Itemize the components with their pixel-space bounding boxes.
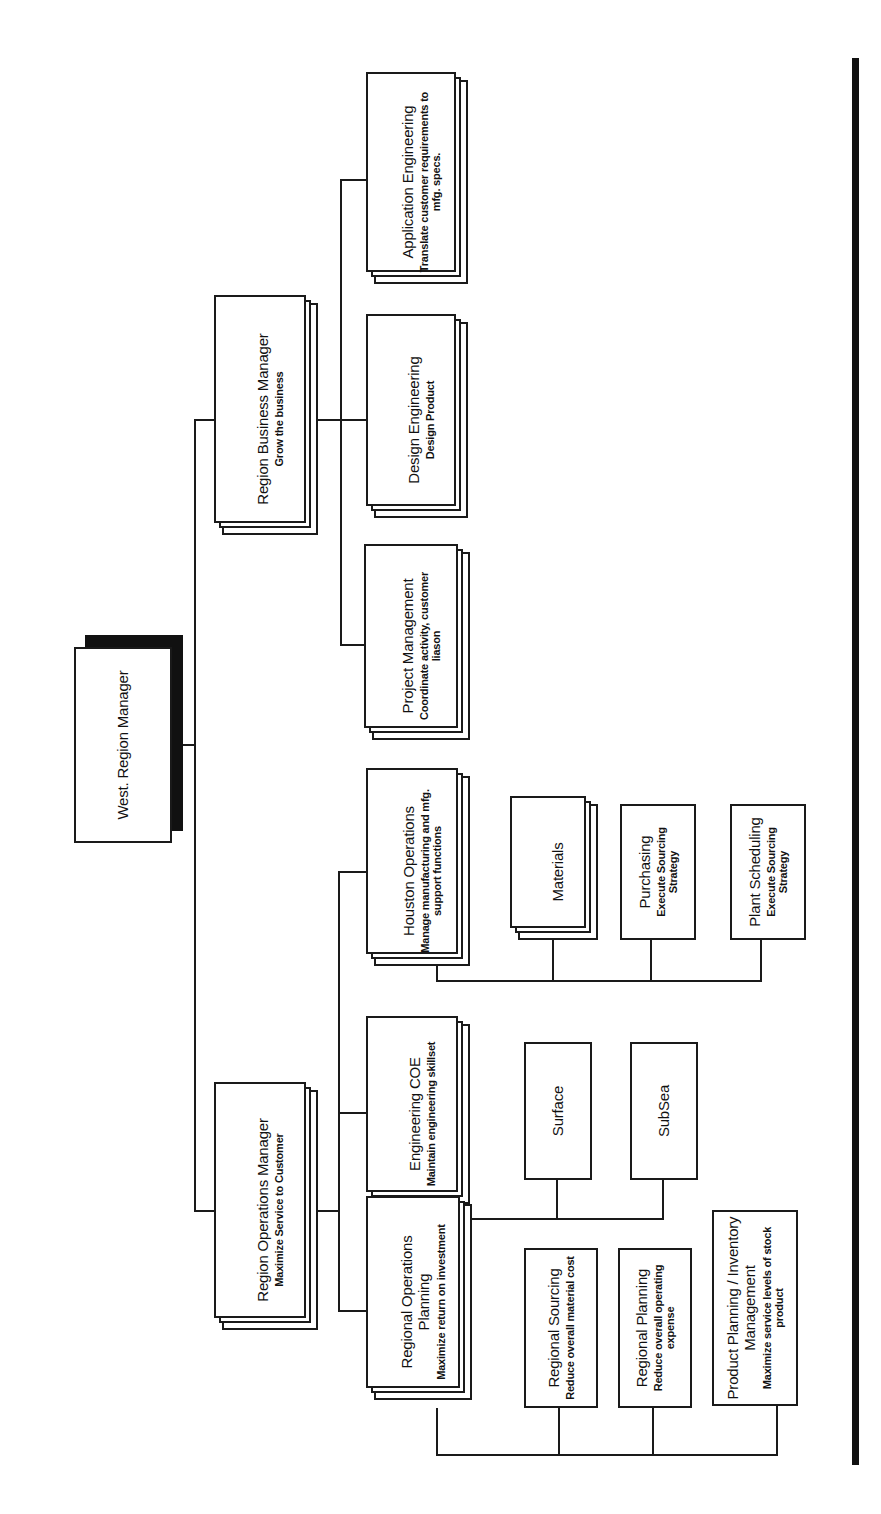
node-surface[interactable]: Surface	[524, 1042, 592, 1180]
node-region-business-manager[interactable]: Region Business Manager Grow the busines…	[222, 303, 318, 535]
connector-to-regional-planning	[652, 1408, 654, 1456]
node-regional-operations-planning[interactable]: Regional Operations Planning Maximize re…	[374, 1204, 472, 1400]
connector-rom-bus	[338, 872, 340, 1312]
node-title: Materials	[550, 842, 567, 901]
node-houston-operations[interactable]: Houston Operations Manage manufacturing …	[374, 776, 470, 966]
org-chart-canvas: West. Region Manager Region Business Man…	[0, 0, 881, 1514]
node-title: Design Engineering	[406, 356, 423, 483]
node-design-engineering[interactable]: Design Engineering Design Product	[374, 322, 468, 518]
connector-to-subsea	[662, 1180, 664, 1220]
connector-to-regional-sourcing	[558, 1408, 560, 1456]
node-title: Region Business Manager	[255, 333, 272, 504]
node-engineering-coe[interactable]: Engineering COE Maintain engineering ski…	[374, 1024, 470, 1204]
node-subtitle: Maximize Service to Customer	[273, 1133, 285, 1286]
node-title: Purchasing	[637, 835, 654, 908]
node-title: Product Planning / Inventory Management	[725, 1216, 759, 1400]
node-subtitle: Design Product	[424, 381, 436, 460]
connector-to-product-planning	[776, 1406, 778, 1456]
node-subtitle: Execute Sourcing Strategy	[765, 810, 789, 934]
node-title: Surface	[550, 1086, 567, 1136]
node-title: SubSea	[656, 1085, 673, 1137]
node-region-operations-manager[interactable]: Region Operations Manager Maximize Servi…	[222, 1090, 318, 1330]
node-title: Region Operations Manager	[255, 1118, 272, 1301]
connector-rop-stub	[436, 1408, 438, 1456]
node-subtitle: Maximize service levels of stock product	[761, 1216, 785, 1400]
connector-to-materials	[552, 940, 554, 982]
node-subsea[interactable]: SubSea	[630, 1042, 698, 1180]
connector-rbm-stub	[318, 419, 342, 421]
node-subtitle: Reduce overall operating expense	[652, 1254, 676, 1402]
node-title: Plant Scheduling	[747, 817, 764, 926]
node-product-planning-inventory-management[interactable]: Product Planning / Inventory Management …	[712, 1210, 798, 1406]
node-subtitle: Maintain engineering skillset	[425, 1042, 437, 1187]
node-subtitle: Execute Sourcing Strategy	[655, 810, 679, 934]
node-west-region-manager[interactable]: West. Region Manager	[74, 647, 172, 843]
node-regional-planning[interactable]: Regional Planning Reduce overall operati…	[618, 1248, 692, 1408]
node-regional-sourcing[interactable]: Regional Sourcing Reduce overall materia…	[524, 1248, 598, 1408]
node-title: Project Management	[400, 579, 417, 714]
connector-rop-bus	[436, 1454, 778, 1456]
node-subtitle: Maximize return on investment	[435, 1224, 447, 1380]
connector-root-stub	[172, 744, 196, 746]
connector-to-purchasing	[650, 940, 652, 982]
node-materials[interactable]: Materials	[518, 804, 598, 940]
node-subtitle: Grow the business	[273, 372, 285, 467]
node-plant-scheduling[interactable]: Plant Scheduling Execute Sourcing Strate…	[730, 804, 806, 940]
connector-level1-bus	[194, 420, 196, 1212]
node-title: Regional Planning	[634, 1269, 651, 1387]
node-title: Regional Operations Planning	[399, 1210, 433, 1394]
connector-to-plant-scheduling	[760, 940, 762, 982]
node-subtitle: Manage manufacturing and mfg. support fu…	[419, 782, 443, 960]
node-title: Regional Sourcing	[546, 1268, 563, 1387]
connector-houston-bus	[436, 980, 762, 982]
connector-to-surface	[556, 1180, 558, 1220]
node-title: Application Engineering	[400, 106, 417, 259]
node-project-management[interactable]: Project Management Coordinate activity, …	[372, 552, 470, 740]
node-title: Houston Operations	[401, 806, 418, 936]
page-edge-rule	[852, 58, 859, 1465]
node-title: Engineering COE	[407, 1057, 424, 1171]
connector-rom-stub	[318, 1210, 340, 1212]
node-title: West. Region Manager	[115, 670, 132, 819]
node-subtitle: Reduce overall material cost	[564, 1256, 576, 1400]
connector-rbm-bus	[340, 180, 342, 646]
node-purchasing[interactable]: Purchasing Execute Sourcing Strategy	[620, 804, 696, 940]
node-subtitle: Translate customer requirements to mfg. …	[418, 86, 442, 278]
node-application-engineering[interactable]: Application Engineering Translate custom…	[374, 80, 468, 284]
node-subtitle: Coordinate activity, customer liason	[418, 558, 442, 734]
